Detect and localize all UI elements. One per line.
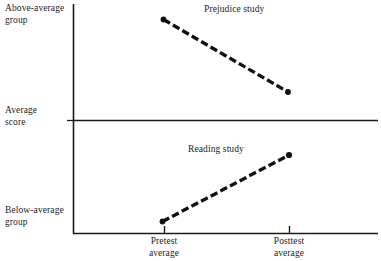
data-point-reading-posttest <box>286 152 292 158</box>
series-reading-study <box>160 152 293 225</box>
series-annotation-prejudice-study: Prejudice study <box>204 4 264 16</box>
y-axis-label-above-average-group: Above-average group <box>5 3 71 26</box>
data-point-reading-pretest <box>160 219 166 225</box>
series-line-reading-study <box>163 155 290 222</box>
x-axis-label-pretest-average: Pretest average <box>124 236 204 259</box>
series-line-prejudice-study <box>164 20 289 93</box>
data-point-prejudice-pretest <box>161 17 167 23</box>
figure-container: Above-average group Average score Below-… <box>0 0 381 261</box>
data-point-prejudice-posttest <box>285 89 291 95</box>
y-axis-label-below-average-group: Below-average group <box>5 205 71 228</box>
series-prejudice-study <box>161 17 291 95</box>
series-annotation-reading-study: Reading study <box>188 144 244 156</box>
x-axis-label-posttest-average: Posttest average <box>249 236 329 259</box>
y-axis-label-average-score: Average score <box>5 105 71 128</box>
